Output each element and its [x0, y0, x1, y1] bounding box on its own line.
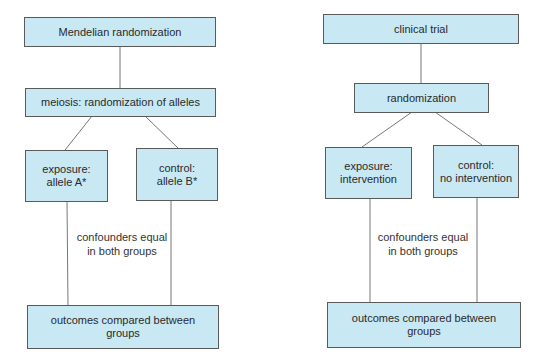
left-top-box: Mendelian randomization — [24, 17, 216, 47]
right-control-label-1: control: — [458, 159, 494, 172]
right-top-box: clinical trial — [323, 14, 519, 44]
left-note-line-1: confounders equal — [72, 230, 172, 244]
right-outcome-label-2: groups — [407, 325, 441, 338]
left-top-label: Mendelian randomization — [59, 26, 182, 39]
left-confounders-note: confounders equal in both groups — [72, 230, 172, 258]
left-outcome-box: outcomes compared between groups — [27, 305, 219, 349]
left-connector-middle-to-control — [145, 116, 178, 148]
left-control-label-2: allele B* — [157, 175, 197, 188]
right-outcome-box: outcomes compared between groups — [327, 302, 521, 348]
right-middle-box: randomization — [354, 83, 489, 113]
left-note-line-2: in both groups — [72, 244, 172, 258]
left-exposure-label-2: allele A* — [47, 176, 87, 189]
left-exposure-label-1: exposure: — [42, 163, 90, 176]
right-connector-middle-to-control — [435, 112, 482, 145]
right-note-line-1: confounders equal — [373, 230, 473, 244]
left-connector-exposure-to-outcome — [67, 201, 68, 306]
right-exposure-label-2: intervention — [340, 173, 397, 186]
right-confounders-note: confounders equal in both groups — [373, 230, 473, 258]
left-middle-box: meiosis: randomization of alleles — [25, 88, 216, 117]
right-control-label-2: no intervention — [440, 172, 512, 185]
right-connector-middle-to-exposure — [362, 112, 412, 147]
left-exposure-box: exposure: allele A* — [25, 150, 108, 202]
left-outcome-label-1: outcomes compared between — [51, 314, 195, 327]
right-exposure-label-1: exposure: — [344, 160, 392, 173]
left-control-label-1: control: — [159, 162, 195, 175]
left-outcome-label-2: groups — [106, 327, 140, 340]
right-note-line-2: in both groups — [373, 244, 473, 258]
left-middle-label: meiosis: randomization of alleles — [41, 96, 200, 109]
right-top-label: clinical trial — [394, 23, 448, 36]
right-control-box: control: no intervention — [433, 145, 519, 198]
right-exposure-box: exposure: intervention — [325, 147, 412, 199]
left-control-box: control: allele B* — [136, 148, 218, 201]
left-connector-middle-to-exposure — [65, 116, 92, 150]
right-middle-label: randomization — [387, 92, 456, 105]
right-outcome-label-1: outcomes compared between — [352, 312, 496, 325]
